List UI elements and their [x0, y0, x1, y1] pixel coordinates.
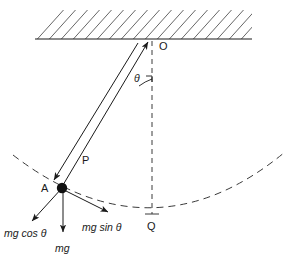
hatched-ceiling-support [20, 5, 275, 45]
label-angle-theta: θ [134, 73, 140, 84]
pendulum-swing-arc [13, 152, 285, 208]
label-force-mg: mg [55, 243, 70, 254]
physics-diagram-canvas: O A Q θ P mg cos θ mg mg sin θ [0, 0, 295, 258]
pendulum-string [54, 42, 148, 185]
string-tension-vector-P [63, 42, 148, 185]
angle-theta-arc [139, 79, 152, 86]
label-point-a: A [41, 183, 48, 194]
string-reaction-vector [54, 43, 138, 180]
pendulum-bob [57, 183, 67, 193]
label-force-p: P [82, 155, 89, 166]
label-point-q: Q [147, 221, 156, 232]
label-point-o: O [159, 41, 168, 52]
label-force-mg-sin-theta: mg sin θ [82, 222, 122, 233]
label-force-mg-cos-theta: mg cos θ [4, 228, 46, 239]
